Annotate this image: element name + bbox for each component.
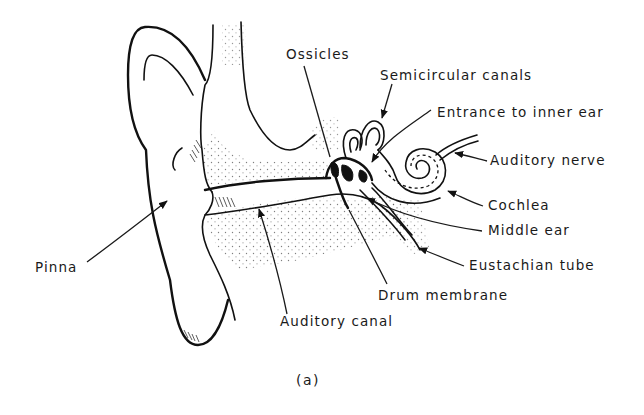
label-ossicles: Ossicles bbox=[286, 48, 350, 62]
label-pointers bbox=[87, 66, 487, 314]
label-cochlea: Cochlea bbox=[488, 199, 550, 213]
label-auditory-nerve: Auditory nerve bbox=[490, 154, 606, 168]
label-eustachian-tube: Eustachian tube bbox=[469, 259, 595, 273]
cochlea-drawing bbox=[372, 149, 446, 203]
pinna-drawing bbox=[128, 25, 235, 345]
auditory-nerve-drawing bbox=[436, 135, 478, 160]
head-contour bbox=[241, 22, 315, 150]
figure-caption: (a) bbox=[296, 373, 320, 387]
label-drum-membrane: Drum membrane bbox=[378, 289, 508, 303]
label-semicircular-canals: Semicircular canals bbox=[380, 69, 532, 83]
label-entrance-inner-ear: Entrance to inner ear bbox=[437, 106, 604, 120]
label-middle-ear: Middle ear bbox=[488, 224, 570, 238]
label-pinna: Pinna bbox=[35, 261, 77, 275]
label-auditory-canal: Auditory canal bbox=[280, 315, 393, 329]
